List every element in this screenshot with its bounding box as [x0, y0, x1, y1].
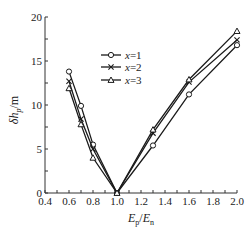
y-tick-label: 0 — [37, 187, 43, 199]
line-chart: 0.40.60.81.01.21.41.61.82.005101520 x=1x… — [0, 0, 248, 232]
x-tick-label: 2.0 — [230, 195, 244, 207]
x-tick-label: 0.8 — [86, 195, 100, 207]
circle-marker-icon — [108, 52, 113, 57]
x-tick-label: 1.6 — [182, 195, 196, 207]
y-tick-label: 5 — [37, 143, 43, 155]
data-series — [66, 28, 240, 196]
x-tick-label: 1.0 — [110, 195, 124, 207]
circle-marker-icon — [150, 143, 155, 148]
triangle-marker-icon — [234, 28, 240, 33]
series-3 — [66, 28, 240, 195]
y-tick-label: 15 — [31, 55, 43, 67]
legend-item-1: x=1 — [101, 49, 142, 61]
legend-item-3: x=3 — [101, 74, 142, 86]
series-1 — [66, 43, 239, 196]
x-tick-label: 0.6 — [62, 195, 76, 207]
series-2 — [66, 37, 239, 195]
circle-marker-icon — [66, 69, 71, 74]
circle-marker-icon — [78, 103, 83, 108]
legend-label: x=1 — [124, 49, 142, 61]
series-line — [69, 40, 237, 193]
circle-marker-icon — [234, 43, 239, 48]
triangle-marker-icon — [90, 155, 96, 160]
y-axis-label: δhp/m — [7, 95, 23, 124]
legend-label: x=3 — [124, 74, 142, 86]
y-tick-label: 10 — [31, 99, 43, 111]
legend-item-2: x=2 — [101, 61, 142, 73]
legend-label: x=2 — [124, 61, 142, 73]
x-tick-label: 1.2 — [134, 195, 148, 207]
y-tick-label: 20 — [31, 11, 43, 23]
legend: x=1x=2x=3 — [101, 49, 142, 86]
axes: 0.40.60.81.01.21.41.61.82.005101520 — [31, 11, 244, 207]
x-axis-label: Ep/En — [127, 211, 154, 227]
x-tick-label: 1.8 — [206, 195, 220, 207]
circle-marker-icon — [186, 92, 191, 97]
cross-marker-icon — [234, 37, 239, 42]
series-line — [69, 31, 237, 193]
x-tick-label: 1.4 — [158, 195, 172, 207]
series-line — [69, 45, 237, 193]
